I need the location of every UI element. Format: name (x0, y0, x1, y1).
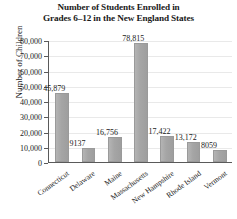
bar-chart: Number of Students Enrolled in Grades 6–… (0, 0, 237, 219)
bar (108, 137, 122, 162)
bar-value-label: 45,879 (43, 84, 65, 93)
bar-slot (187, 41, 201, 162)
x-axis-tick-label: Vermont (202, 169, 228, 192)
y-axis-tick-label: 70,000 (20, 52, 42, 61)
y-axis-tick-label: 30,000 (20, 113, 42, 122)
bar-slot (55, 41, 69, 162)
bar (134, 43, 148, 162)
y-axis-tick (44, 72, 48, 73)
x-axis-tick-label: Delaware (68, 169, 97, 193)
y-axis-tick (44, 163, 48, 164)
y-axis-tick (44, 56, 48, 57)
plot-area: 80,00070,00060,00050,00040,00030,00020,0… (48, 41, 232, 163)
y-axis-tick (44, 102, 48, 103)
y-axis-tick (44, 41, 48, 42)
bar-value-label: 78,815 (122, 34, 144, 43)
bar-value-label: 13,172 (175, 133, 197, 142)
chart-title-line-1: Number of Students Enrolled in (0, 2, 237, 13)
bar (82, 148, 96, 162)
bar-value-label: 17,422 (148, 127, 170, 136)
bar-slot (134, 41, 148, 162)
bar (187, 142, 201, 162)
y-axis-tick-label: 80,000 (20, 37, 42, 46)
chart-title-line-2: Grades 6–12 in the New England States (0, 13, 237, 24)
x-axis-line (48, 162, 232, 163)
y-axis-tick (44, 133, 48, 134)
bar-value-label: 16,756 (96, 128, 118, 137)
bar (213, 150, 227, 162)
y-axis-tick-label: 10,000 (20, 143, 42, 152)
bar-value-label: 8059 (201, 141, 217, 150)
y-axis-tick (44, 148, 48, 149)
y-axis-tick-label: 60,000 (20, 67, 42, 76)
bar-slot (160, 41, 174, 162)
bar-value-label: 9137 (70, 139, 86, 148)
y-axis-tick-label: 50,000 (20, 82, 42, 91)
bar-slot (108, 41, 122, 162)
y-axis-tick-label: 40,000 (20, 98, 42, 107)
chart-title: Number of Students Enrolled in Grades 6–… (0, 2, 237, 24)
y-axis-tick (44, 117, 48, 118)
bar (55, 93, 69, 162)
bar (160, 136, 174, 162)
x-axis-tick-label: Connecticut (36, 169, 71, 198)
y-axis-tick-label: 20,000 (20, 128, 42, 137)
y-axis-tick-label: 0 (38, 159, 42, 168)
